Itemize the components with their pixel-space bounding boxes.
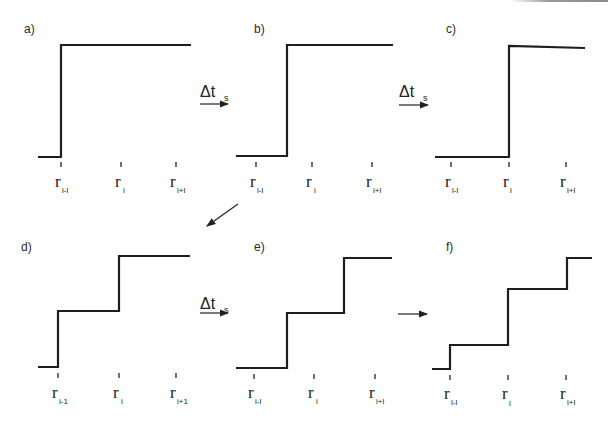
step-curve-f — [432, 258, 592, 369]
svg-text:r: r — [115, 172, 121, 191]
step-curve-b — [236, 45, 393, 156]
panel-label-a: a) — [24, 22, 35, 36]
arrow-diagonal-icon — [207, 204, 238, 226]
svg-text:i+1: i+1 — [177, 397, 188, 406]
svg-text:r: r — [445, 172, 451, 191]
panel-label-c: c) — [446, 22, 456, 36]
svg-text:r: r — [306, 172, 312, 191]
panel-c: c) r l-l r i r l+l — [435, 22, 585, 195]
svg-text:i: i — [121, 397, 123, 406]
svg-text:Δt: Δt — [200, 295, 216, 312]
transition-a-to-b: Δt s — [200, 83, 229, 104]
panel-f: f) r l-l r l r i+l — [432, 240, 592, 408]
tick-labels-d: r i-1 r i r i+1 — [52, 373, 188, 406]
svg-text:i-l: i-l — [255, 397, 261, 406]
tick-labels-e: r i-l r i r i+l — [248, 374, 384, 406]
svg-text:r: r — [55, 172, 61, 191]
svg-text:r: r — [369, 383, 375, 402]
panel-label-d: d) — [21, 240, 32, 254]
svg-text:i: i — [510, 186, 512, 195]
svg-text:r: r — [248, 383, 254, 402]
svg-text:l-l: l-l — [451, 398, 457, 407]
svg-text:i+l: i+l — [376, 397, 384, 406]
transition-c-to-d — [207, 204, 238, 226]
panel-label-f: f) — [446, 240, 453, 254]
svg-text:s: s — [224, 93, 229, 103]
svg-text:l-l: l-l — [452, 186, 458, 195]
tick-labels-c: r l-l r i r l+l — [445, 162, 575, 195]
svg-text:l: l — [509, 399, 511, 408]
svg-text:r: r — [560, 384, 566, 403]
panel-label-e: e) — [254, 240, 265, 254]
panel-label-b: b) — [254, 22, 265, 36]
svg-text:i: i — [316, 397, 318, 406]
svg-text:r: r — [502, 384, 508, 403]
svg-text:Δt: Δt — [200, 83, 216, 100]
panel-a: a) r i-l r i r i+l — [24, 22, 191, 195]
svg-text:r: r — [170, 383, 176, 402]
svg-text:r: r — [52, 383, 58, 402]
step-curve-e — [236, 258, 392, 368]
svg-text:i-l: i-l — [62, 186, 68, 195]
svg-text:i: i — [314, 186, 316, 195]
svg-text:r: r — [170, 172, 176, 191]
step-curve-d — [38, 256, 190, 367]
svg-text:i-l: i-l — [257, 186, 263, 195]
panel-d: d) r i-1 r i r i+1 — [21, 240, 190, 406]
svg-text:i+l: i+l — [177, 186, 185, 195]
svg-text:r: r — [503, 172, 509, 191]
panel-e: e) r i-l r i r i+l — [236, 240, 392, 406]
tick-labels-a: r i-l r i r i+l — [55, 162, 185, 195]
svg-text:r: r — [113, 383, 119, 402]
svg-text:r: r — [308, 383, 314, 402]
svg-text:i+l: i+l — [373, 186, 381, 195]
tick-labels-b: r i-l r i r i+l — [250, 162, 381, 195]
transition-d-to-e: Δt s — [200, 295, 229, 315]
svg-text:r: r — [444, 384, 450, 403]
svg-text:Δt: Δt — [399, 83, 415, 100]
svg-text:s: s — [423, 93, 428, 103]
step-curve-a — [38, 45, 191, 157]
step-curve-c — [435, 46, 585, 157]
svg-text:i-1: i-1 — [59, 397, 68, 406]
tick-labels-f: r l-l r l r i+l — [444, 375, 575, 408]
svg-text:i+l: i+l — [567, 398, 575, 407]
svg-text:i: i — [123, 186, 125, 195]
svg-text:l+l: l+l — [567, 186, 575, 195]
svg-text:r: r — [366, 172, 372, 191]
panel-b: b) r i-l r i r i+l — [236, 22, 393, 195]
svg-text:r: r — [250, 172, 256, 191]
step-evolution-diagram: a) r i-l r i r i+l Δt s b) r i-l r i — [0, 0, 608, 426]
svg-text:r: r — [560, 172, 566, 191]
transition-b-to-c: Δt s — [399, 83, 428, 105]
